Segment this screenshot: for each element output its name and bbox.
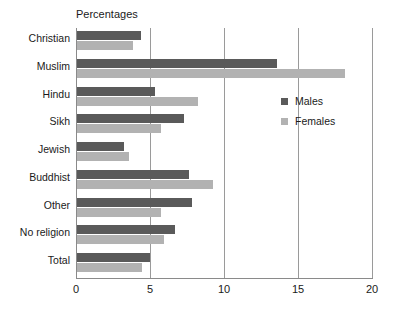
bar-females-buddhist [77, 180, 213, 189]
x-tick-label-15: 15 [292, 283, 304, 295]
bar-females-total [77, 263, 142, 272]
bar-females-muslim [77, 69, 345, 78]
bar-females-hindu [77, 97, 198, 106]
bar-group [77, 167, 373, 195]
bar-males-buddhist [77, 170, 189, 179]
x-tick-label-0: 0 [73, 283, 79, 295]
legend-swatch-males-icon [281, 98, 288, 105]
legend-label-females: Females [295, 115, 335, 127]
x-tick-label-20: 20 [366, 283, 378, 295]
category-label-christian: Christian [0, 32, 70, 44]
bar-females-sikh [77, 124, 161, 133]
x-tick-label-5: 5 [147, 283, 153, 295]
bar-group [77, 195, 373, 223]
bar-females-jewish [77, 152, 129, 161]
chart-legend: Males Females [281, 95, 335, 135]
legend-item-males[interactable]: Males [281, 95, 335, 107]
legend-swatch-females-icon [281, 118, 288, 125]
bar-males-muslim [77, 59, 277, 68]
plot-area [76, 28, 373, 279]
bar-males-sikh [77, 114, 184, 123]
category-label-buddhist: Buddhist [0, 171, 70, 183]
category-label-other: Other [0, 199, 70, 211]
bar-group [77, 139, 373, 167]
bar-males-christian [77, 31, 141, 40]
bar-males-other [77, 198, 192, 207]
bar-males-total [77, 253, 150, 262]
bar-group [77, 56, 373, 84]
category-label-hindu: Hindu [0, 88, 70, 100]
bar-females-other [77, 208, 161, 217]
legend-label-males: Males [295, 95, 323, 107]
bar-group [77, 250, 373, 278]
category-label-total: Total [0, 254, 70, 266]
x-tick-label-10: 10 [218, 283, 230, 295]
bar-chart: Percentages ChristianMuslimHinduSikhJewi… [0, 0, 402, 309]
bar-males-no-religion [77, 225, 175, 234]
bar-males-jewish [77, 142, 124, 151]
bar-males-hindu [77, 87, 155, 96]
bar-group [77, 222, 373, 250]
bar-females-christian [77, 41, 133, 50]
bar-group [77, 28, 373, 56]
chart-title: Percentages [76, 8, 138, 21]
legend-item-females[interactable]: Females [281, 115, 335, 127]
bar-females-no-religion [77, 235, 164, 244]
category-label-sikh: Sikh [0, 115, 70, 127]
category-label-jewish: Jewish [0, 143, 70, 155]
category-label-muslim: Muslim [0, 60, 70, 72]
category-label-no-religion: No religion [0, 226, 70, 238]
